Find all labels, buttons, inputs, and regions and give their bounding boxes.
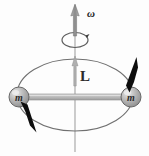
diagram-canvas: ω L m m (0, 0, 149, 156)
mass-right: m (121, 87, 141, 107)
velocity-arrow-left (21, 102, 37, 133)
angular-momentum-label: L (80, 68, 90, 84)
physics-diagram-figure: ω L m m (0, 0, 149, 156)
angular-momentum-vector (72, 56, 78, 86)
omega-label: ω (87, 7, 95, 19)
connecting-rod (17, 94, 132, 100)
omega-arrow-icon (71, 4, 79, 36)
velocity-left-arrow-icon (21, 102, 37, 133)
mass-left-label: m (15, 92, 23, 103)
L-arrow-icon (72, 56, 78, 86)
rod-body (17, 94, 132, 100)
mass-right-label: m (127, 92, 135, 103)
omega-vector (71, 4, 79, 36)
